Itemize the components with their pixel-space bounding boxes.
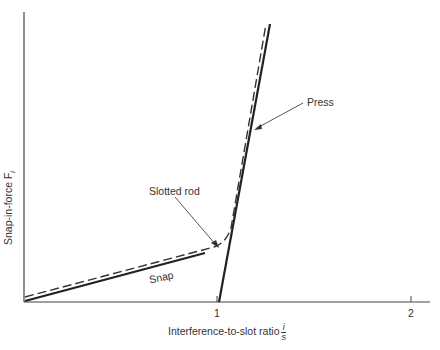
y-axis-label-sub: i	[9, 171, 16, 173]
ratio-fraction: is	[281, 323, 286, 342]
chart-canvas	[0, 0, 440, 350]
x-axis-label-text: Interference-to-slot ratio	[168, 325, 279, 337]
press-label: Press	[307, 96, 334, 108]
slotted-rod-arrow	[175, 197, 216, 245]
snap-line	[25, 253, 205, 301]
x-tick-label-1: 1	[214, 307, 220, 319]
slotted-rod-label: Slotted rod	[149, 185, 200, 197]
x-axis-label: Interference-to-slot ratiois	[168, 323, 286, 342]
x-tick-label-2: 2	[408, 307, 414, 319]
y-axis-label: Snap-in-force Fi	[2, 171, 16, 245]
press-arrow	[257, 103, 303, 128]
slotted-rod-curve	[25, 24, 266, 297]
press-line	[219, 24, 270, 302]
press-arrowhead	[254, 124, 262, 130]
y-axis-label-text: Snap-in-force F	[2, 173, 14, 245]
